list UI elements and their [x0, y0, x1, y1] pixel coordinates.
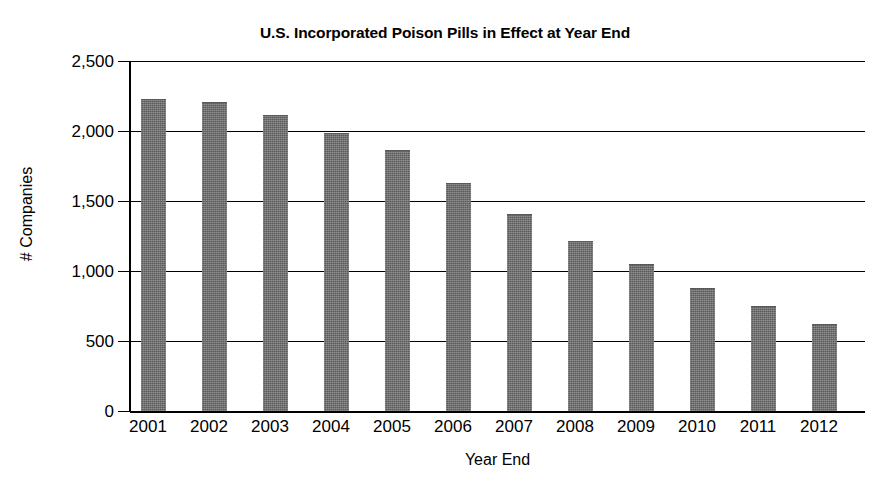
bar-2008 — [568, 241, 593, 411]
gridline-1500 — [130, 201, 865, 202]
x-tick-label-2006: 2006 — [418, 418, 488, 435]
y-tick-label-2500: 2,500 — [52, 53, 114, 70]
x-tick-label-2004: 2004 — [296, 418, 366, 435]
bar-2009 — [629, 264, 654, 411]
bar-2004 — [324, 133, 349, 411]
y-tick-label-1000: 1,000 — [52, 263, 114, 280]
bar-chart-figure: U.S. Incorporated Poison Pills in Effect… — [0, 0, 890, 491]
x-tick-label-2009: 2009 — [601, 418, 671, 435]
bar-2002 — [202, 102, 227, 411]
x-tick-label-2008: 2008 — [540, 418, 610, 435]
bar-2001 — [141, 99, 166, 411]
y-axis-tick-labels: 2,500 2,000 1,500 1,000 500 0 — [40, 0, 114, 491]
y-tick-label-2000: 2,000 — [52, 123, 114, 140]
x-tick-label-2002: 2002 — [174, 418, 244, 435]
y-tick-label-500: 500 — [52, 333, 114, 350]
x-tick-label-2012: 2012 — [784, 418, 854, 435]
x-tick-label-2003: 2003 — [235, 418, 305, 435]
bar-2005 — [385, 150, 410, 411]
y-tick-label-1500: 1,500 — [52, 193, 114, 210]
x-tick-label-2001: 2001 — [113, 418, 183, 435]
gridline-2000 — [130, 131, 865, 132]
x-axis-baseline — [130, 411, 865, 413]
bar-2007 — [507, 214, 532, 411]
bar-2010 — [690, 288, 715, 412]
gridline-2500 — [130, 61, 865, 62]
bar-2006 — [446, 183, 471, 411]
gridline-1000 — [130, 271, 865, 272]
x-axis-title: Year End — [130, 451, 865, 469]
x-tick-label-2011: 2011 — [723, 418, 793, 435]
x-tick-label-2010: 2010 — [662, 418, 732, 435]
chart-title: U.S. Incorporated Poison Pills in Effect… — [0, 24, 890, 42]
x-tick-label-2005: 2005 — [357, 418, 427, 435]
bar-2011 — [751, 306, 776, 411]
plot-area — [130, 61, 865, 411]
y-axis-title: # Companies — [18, 124, 36, 304]
y-tick-label-0: 0 — [52, 403, 114, 420]
bar-2003 — [263, 115, 288, 411]
x-tick-label-2007: 2007 — [479, 418, 549, 435]
bar-2012 — [812, 324, 837, 411]
